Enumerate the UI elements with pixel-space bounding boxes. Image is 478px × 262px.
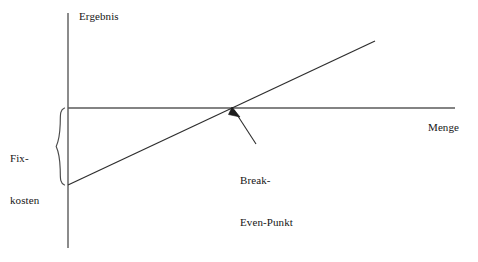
- break-even-label-line1: Break-: [240, 173, 293, 187]
- y-axis-label: Ergebnis: [79, 9, 119, 23]
- fixed-costs-label: Fix- kosten: [10, 123, 39, 235]
- break-even-label-line2: Even-Punkt: [240, 215, 293, 229]
- break-even-label: Break- Even-Punkt: [240, 145, 293, 257]
- x-axis-label: Menge: [428, 120, 459, 134]
- fixed-costs-label-line2: kosten: [10, 193, 39, 207]
- break-even-diagram: Ergebnis Menge Fix- kosten Break- Even-P…: [0, 0, 478, 262]
- diagram-canvas: [0, 0, 478, 262]
- result-line: [68, 41, 375, 185]
- fixed-costs-label-line1: Fix-: [10, 151, 39, 165]
- fixed-costs-brace: [56, 108, 64, 185]
